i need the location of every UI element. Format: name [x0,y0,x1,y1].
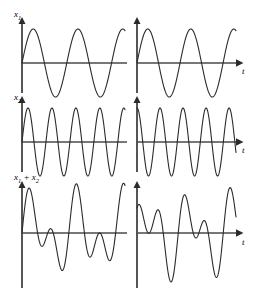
panel-sum-left [22,183,127,288]
panels-layer [22,22,238,288]
axis-label-x1: x1 [13,9,21,21]
waveform-svg: x1 x2 x1 + x2 t t t [0,0,267,300]
panel-sum-right [137,186,238,288]
axis-label-t-row2: t [242,145,245,155]
waveform-curve-sum-left [22,183,125,270]
panel-x1-left [22,22,127,97]
axis-label-x2: x2 [13,92,22,104]
axis-label-t-row1: t [242,66,245,76]
waveform-figure: x1 x2 x1 + x2 t t t [0,0,267,300]
axis-label-t-row3: t [242,237,245,247]
panel-x2-right [137,101,238,176]
panel-x1-right [137,22,238,97]
waveform-curve-sum-right [137,188,236,282]
axis-label-x1-plus-x2: x1 + x2 [13,172,40,184]
panel-x2-left [22,101,127,176]
